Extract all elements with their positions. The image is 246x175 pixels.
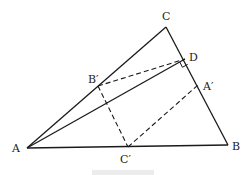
caption-fragment — [92, 170, 154, 175]
dashed-segment-b-prime-d — [98, 59, 185, 86]
label-a-prime: A′ — [202, 80, 214, 93]
label-b-prime: B′ — [88, 73, 99, 86]
dashed-segment-b-prime-c-prime — [98, 86, 128, 147]
triangle-diagram: A B C D B′ A′ C′ — [0, 0, 246, 175]
label-a: A — [11, 142, 21, 155]
label-b: B — [232, 140, 240, 153]
dashed-segment-c-prime-a-prime — [128, 85, 198, 147]
label-c: C — [162, 10, 170, 23]
side-ca — [27, 27, 166, 148]
label-d: D — [189, 51, 198, 64]
label-c-prime: C′ — [120, 153, 131, 166]
geometry-figure: A B C D B′ A′ C′ — [0, 0, 246, 175]
